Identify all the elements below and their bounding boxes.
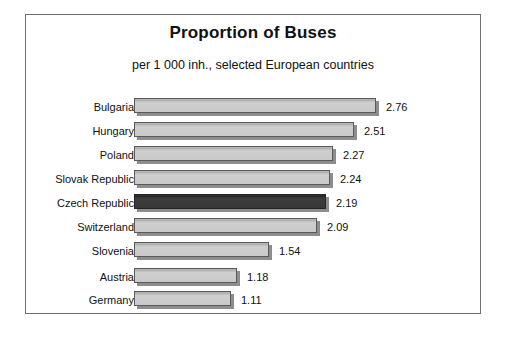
bar-row: Slovenia1.54 — [26, 242, 482, 259]
bar-category-label: Slovenia — [92, 245, 134, 256]
bar-category-label: Poland — [100, 149, 134, 160]
bar-graphic — [134, 268, 237, 285]
bar-category-label: Bulgaria — [94, 101, 134, 112]
bar-category-label: Austria — [100, 271, 134, 282]
bar — [134, 170, 330, 185]
bar-value-label: 2.27 — [343, 149, 364, 160]
bar-row: Germany1.11 — [26, 291, 482, 308]
bar — [134, 98, 376, 113]
chart-frame: Proportion of Buses per 1 000 inh., sele… — [25, 14, 481, 314]
plot-area: Bulgaria2.76Hungary2.51Poland2.27Slovak … — [26, 94, 482, 309]
bar-graphic — [134, 242, 269, 259]
bar-graphic — [134, 146, 333, 163]
bar-shadow-bottom — [137, 161, 336, 164]
bar-shadow-bottom — [137, 137, 357, 140]
bar — [134, 146, 333, 161]
bar-value-label: 2.09 — [327, 221, 348, 232]
bar-category-label: Czech Republic — [57, 197, 134, 208]
bar-shadow-bottom — [137, 185, 333, 188]
bar-graphic — [134, 218, 317, 235]
bar — [134, 291, 231, 306]
bar-value-label: 1.11 — [241, 294, 262, 305]
bar — [134, 268, 237, 283]
bar-shadow-bottom — [137, 113, 379, 116]
bar-shadow-bottom — [137, 306, 234, 309]
bar-shadow-bottom — [137, 257, 272, 260]
bar — [134, 122, 354, 137]
bar-category-label: Germany — [89, 294, 134, 305]
bar-highlighted — [134, 194, 326, 209]
bar-row: Austria1.18 — [26, 268, 482, 285]
bar-category-label: Hungary — [92, 125, 134, 136]
bar-value-label: 2.19 — [336, 197, 357, 208]
bar-shadow-bottom — [137, 233, 320, 236]
bar-row: Slovak Republic2.24 — [26, 170, 482, 187]
bar-category-label: Slovak Republic — [55, 173, 134, 184]
bar-graphic — [134, 194, 326, 211]
bar-value-label: 1.54 — [279, 245, 300, 256]
bar-value-label: 2.24 — [340, 173, 361, 184]
bar-graphic — [134, 98, 376, 115]
chart-subtitle: per 1 000 inh., selected European countr… — [26, 58, 480, 72]
bar — [134, 218, 317, 233]
bar-shadow-bottom — [137, 209, 329, 212]
bar-graphic — [134, 291, 231, 308]
bar-shadow-bottom — [137, 283, 240, 286]
bar-row: Poland2.27 — [26, 146, 482, 163]
chart-title: Proportion of Buses — [26, 23, 480, 43]
bar-graphic — [134, 170, 330, 187]
bar-value-label: 1.18 — [247, 271, 268, 282]
bar-graphic — [134, 122, 354, 139]
bar — [134, 242, 269, 257]
bar-row: Bulgaria2.76 — [26, 98, 482, 115]
bar-category-label: Switzerland — [77, 221, 134, 232]
bar-value-label: 2.51 — [364, 125, 385, 136]
bar-row: Hungary2.51 — [26, 122, 482, 139]
bar-value-label: 2.76 — [386, 101, 407, 112]
bar-row: Czech Republic2.19 — [26, 194, 482, 211]
bar-row: Switzerland2.09 — [26, 218, 482, 235]
